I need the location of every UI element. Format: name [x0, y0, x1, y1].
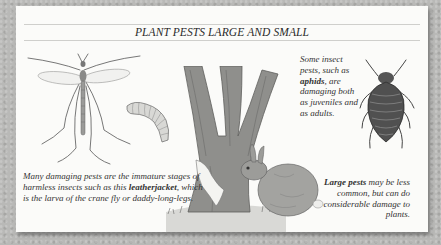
title-rule-bottom — [24, 40, 420, 41]
caption-large-pests-keyword: Large pests — [324, 177, 366, 187]
caption-leatherjacket-keyword: leatherjacket — [129, 182, 177, 192]
caption-leatherjacket: Many damaging pests are the immature sta… — [23, 171, 208, 203]
illustration-panel: PLANT PESTS LARGE AND SMALL — [16, 6, 428, 232]
caption-aphids-keyword: aphids — [300, 76, 325, 86]
panel-title: PLANT PESTS LARGE AND SMALL — [16, 25, 428, 40]
aphid-illustration — [356, 58, 416, 150]
caption-large-pests: Large pests may be less common, but can … — [316, 177, 410, 220]
caption-aphids: Some insect pests, such as aphids, are d… — [300, 54, 360, 119]
rabbit-illustration — [234, 144, 324, 224]
